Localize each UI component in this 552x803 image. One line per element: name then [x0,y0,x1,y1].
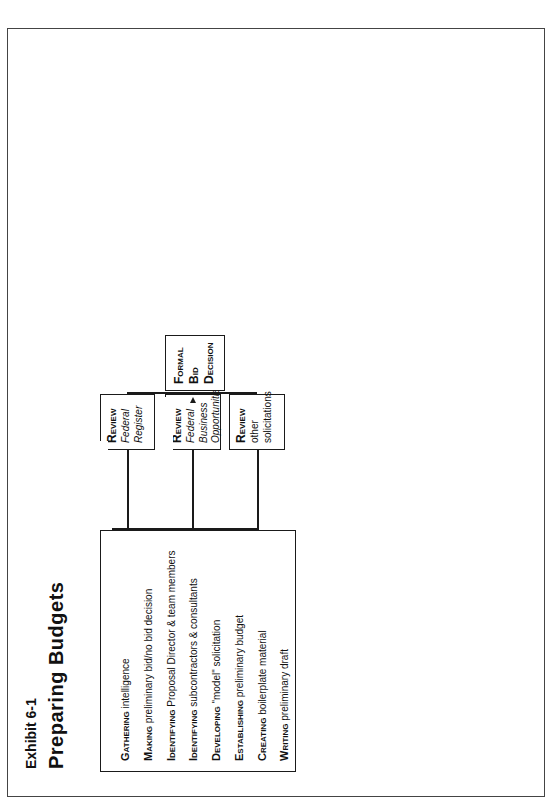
exhibit-label: Exhibit 6-1 [23,698,39,769]
connector [192,450,194,530]
list-item: Making preliminary bid/no bid decision [142,541,156,761]
list-item: Establishing preliminary budget [233,541,247,761]
connector [127,393,257,395]
preliminary-activities-box: Gathering intelligence Making preliminar… [100,530,296,772]
list-item: Gathering intelligence [119,541,133,761]
arrow-icon [190,397,196,403]
connector [112,529,258,531]
list-item: Writing preliminary draft [278,541,292,761]
connector [257,450,259,530]
list-item: Developing "model" solicitation [210,541,224,761]
list-item: Identifying Proposal Director & team mem… [165,541,179,761]
page-title: Preparing Budgets [45,582,68,769]
formal-bid-decision-box [165,397,173,453]
formal-bid-decision-box: FormalBidDecision [165,335,225,391]
bid-box [100,443,108,455]
review-other-box: Reviewother solicitations [229,394,285,450]
list-item: Identifying subcontractors & consultants [187,541,201,761]
review-federal-register-box: ReviewFederal Register [100,394,155,450]
connector [127,450,129,530]
list-item: Creating boilerplate material [256,541,270,761]
diagram-canvas: Exhibit 6-1 Preparing Budgets Gathering … [0,0,552,803]
